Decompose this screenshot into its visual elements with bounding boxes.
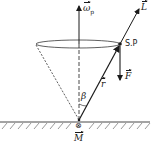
- M-label: M: [74, 134, 83, 143]
- r-vector: [79, 46, 119, 120]
- cone: [36, 40, 120, 120]
- sp-label: S.P: [125, 40, 137, 48]
- beta-label: β: [81, 92, 86, 101]
- omega-label: ωp: [83, 4, 94, 15]
- r-label: r: [101, 80, 105, 89]
- torque-into-page-icon: ⊗: [75, 122, 82, 130]
- beta-angle-arc: [79, 104, 87, 106]
- center-of-mass-point: [118, 42, 122, 46]
- L-label: L: [141, 3, 147, 12]
- F-label: F: [125, 72, 131, 81]
